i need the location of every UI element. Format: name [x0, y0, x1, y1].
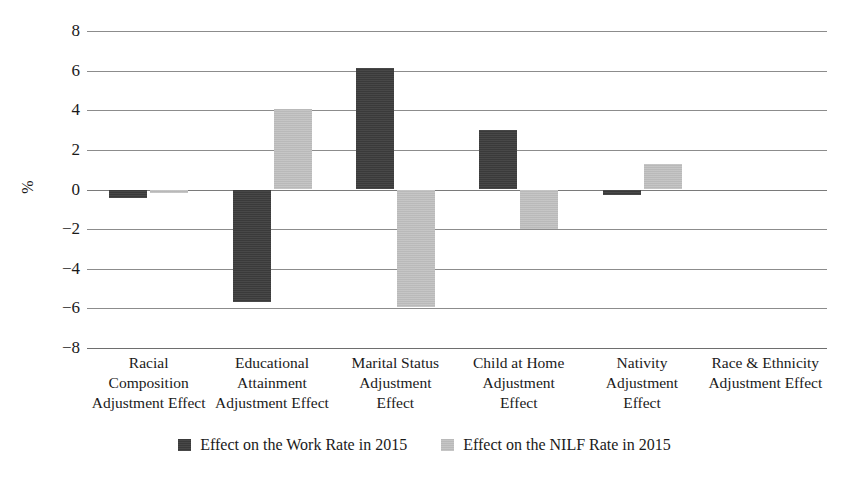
- legend-swatch-icon: [441, 439, 454, 451]
- bar: [150, 190, 188, 194]
- y-axis-tick-labels: 86420−2−4−6−8: [40, 31, 80, 348]
- y-tick-label: 8: [40, 22, 80, 39]
- x-label-line: Racial: [87, 353, 210, 373]
- x-label-line: Adjustment Effect: [87, 393, 210, 413]
- y-tick-label: −2: [40, 220, 80, 237]
- y-tick-label: −8: [40, 339, 80, 356]
- x-label-line: Race & Ethnicity: [704, 353, 827, 373]
- bar: [356, 68, 394, 190]
- x-label-line: Attainment: [210, 373, 333, 393]
- bar: [603, 190, 641, 196]
- x-label-line: Adjustment: [334, 373, 457, 393]
- x-label-line: Adjustment: [457, 373, 580, 393]
- chart-legend: Effect on the Work Rate in 2015Effect on…: [0, 436, 849, 454]
- y-tick-label: 2: [40, 141, 80, 158]
- bar: [520, 190, 558, 229]
- x-label-line: Adjustment: [580, 373, 703, 393]
- x-axis-category-label: NativityAdjustmentEffect: [580, 353, 703, 413]
- x-label-line: Nativity: [580, 353, 703, 373]
- y-tick-label: −4: [40, 260, 80, 277]
- x-axis-category-label: EducationalAttainmentAdjustment Effect: [210, 353, 333, 413]
- x-axis-category-label: Child at HomeAdjustmentEffect: [457, 353, 580, 413]
- x-label-line: Adjustment Effect: [704, 373, 827, 393]
- x-label-line: Effect: [457, 393, 580, 413]
- legend-item: Effect on the NILF Rate in 2015: [441, 436, 671, 454]
- bar: [109, 190, 147, 199]
- bar: [479, 130, 517, 189]
- x-axis-category-label: Race & EthnicityAdjustment Effect: [704, 353, 827, 393]
- bar: [397, 190, 435, 308]
- bar: [233, 190, 271, 303]
- x-axis-category-label: Marital StatusAdjustmentEffect: [334, 353, 457, 413]
- x-label-line: Child at Home: [457, 353, 580, 373]
- x-label-line: Effect: [334, 393, 457, 413]
- x-axis-category-label: RacialCompositionAdjustment Effect: [87, 353, 210, 413]
- x-label-line: Composition: [87, 373, 210, 393]
- x-label-line: Educational: [210, 353, 333, 373]
- y-tick-label: 4: [40, 101, 80, 118]
- legend-item: Effect on the Work Rate in 2015: [178, 436, 407, 454]
- legend-label: Effect on the Work Rate in 2015: [200, 436, 407, 454]
- gridline--8: [87, 348, 827, 349]
- bar-chart: % 86420−2−4−6−8 RacialCompositionAdjustm…: [0, 0, 849, 478]
- y-tick-label: 6: [40, 62, 80, 79]
- legend-swatch-icon: [178, 439, 191, 451]
- y-axis-title: %: [19, 167, 37, 207]
- x-label-line: Marital Status: [334, 353, 457, 373]
- bar: [644, 164, 682, 190]
- y-tick-label: −6: [40, 299, 80, 316]
- x-label-line: Effect: [580, 393, 703, 413]
- y-tick-label: 0: [40, 181, 80, 198]
- bars-layer: [87, 31, 827, 348]
- legend-label: Effect on the NILF Rate in 2015: [463, 436, 671, 454]
- plot-area: [87, 31, 827, 348]
- bar: [274, 109, 312, 189]
- x-label-line: Adjustment Effect: [210, 393, 333, 413]
- x-axis-category-labels: RacialCompositionAdjustment EffectEducat…: [87, 353, 827, 419]
